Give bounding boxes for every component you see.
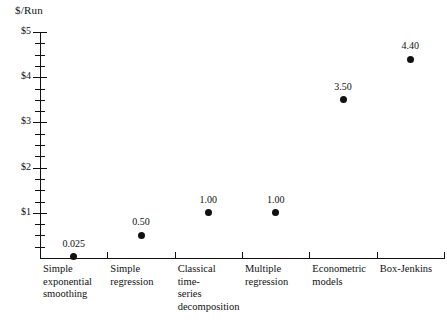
data-point-label: 1.00 bbox=[200, 194, 218, 205]
data-point bbox=[70, 253, 77, 260]
y-axis-major-tick bbox=[33, 32, 47, 33]
y-axis-minor-tick bbox=[35, 111, 45, 112]
y-axis-major-tick bbox=[33, 77, 47, 78]
data-point-label: 0.50 bbox=[132, 216, 150, 227]
y-axis-minor-tick bbox=[35, 66, 45, 67]
data-point bbox=[205, 209, 212, 216]
y-axis-tick-label-text: $4 bbox=[21, 70, 31, 81]
y-axis-tick-label-text: $1 bbox=[21, 206, 31, 217]
data-point bbox=[407, 56, 414, 63]
data-point-label: 4.40 bbox=[402, 40, 420, 51]
data-point bbox=[272, 209, 279, 216]
data-point-label: 3.50 bbox=[334, 81, 352, 92]
y-axis-minor-tick bbox=[35, 235, 45, 236]
x-axis-tick bbox=[309, 252, 310, 259]
x-axis-tick bbox=[377, 252, 378, 259]
y-axis-minor-tick bbox=[35, 247, 45, 248]
y-axis-tick-label-text: $5 bbox=[21, 25, 31, 36]
y-axis-minor-tick bbox=[35, 55, 45, 56]
y-axis-major-tick bbox=[33, 168, 47, 169]
y-axis-minor-tick bbox=[35, 156, 45, 157]
y-axis-minor-tick bbox=[35, 100, 45, 101]
cost-per-run-scatter-chart: $/Run $5$4$3$2$1 0.0250.501.001.003.504.… bbox=[0, 0, 447, 322]
y-axis-minor-tick bbox=[35, 43, 45, 44]
y-axis-minor-tick bbox=[35, 179, 45, 180]
x-axis-tick bbox=[444, 252, 445, 259]
y-axis-tick-label-text: $3 bbox=[21, 115, 31, 126]
y-axis-minor-tick bbox=[35, 89, 45, 90]
x-axis-tick bbox=[175, 252, 176, 259]
x-axis-tick bbox=[107, 252, 108, 259]
data-point bbox=[138, 232, 145, 239]
y-axis-major-tick bbox=[33, 213, 47, 214]
y-axis-tick-label-text: $2 bbox=[21, 161, 31, 172]
data-point bbox=[340, 96, 347, 103]
y-axis-minor-tick bbox=[35, 134, 45, 135]
y-axis-title: $/Run bbox=[15, 4, 43, 16]
data-point-label: 1.00 bbox=[267, 194, 285, 205]
data-point-label: 0.025 bbox=[62, 238, 85, 249]
x-axis-tick bbox=[242, 252, 243, 259]
y-axis-minor-tick bbox=[35, 145, 45, 146]
y-axis-minor-tick bbox=[35, 202, 45, 203]
y-axis-major-tick bbox=[33, 122, 47, 123]
x-axis-category-label: Box-Jenkins bbox=[380, 263, 447, 276]
y-axis-minor-tick bbox=[35, 224, 45, 225]
y-axis-minor-tick bbox=[35, 190, 45, 191]
